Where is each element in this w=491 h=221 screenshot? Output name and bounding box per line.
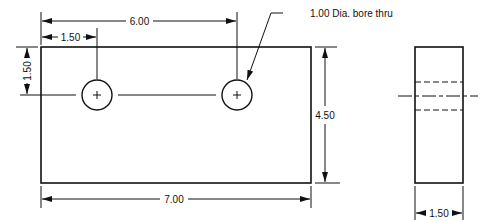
side-view — [398, 47, 478, 220]
hole-2 — [222, 80, 252, 110]
front-view-outline — [41, 47, 311, 183]
dim-label-150-top: 1.50 — [61, 32, 81, 43]
bore-note: 1.00 Dia. bore thru — [310, 8, 393, 19]
hole-1 — [82, 80, 112, 110]
front-view-labels: 6.00 1.50 1.50 4.50 7.00 1.00 Dia. bore … — [22, 8, 393, 205]
dim-label-450: 4.50 — [315, 110, 335, 121]
dim-label-7: 7.00 — [164, 194, 184, 205]
side-dim-label-150: 1.50 — [429, 208, 449, 219]
side-view-outline — [415, 47, 463, 183]
dim-label-150-left: 1.50 — [22, 61, 33, 81]
technical-drawing: 6.00 1.50 1.50 4.50 7.00 1.00 Dia. bore … — [0, 0, 491, 221]
dim-label-6: 6.00 — [130, 16, 150, 27]
